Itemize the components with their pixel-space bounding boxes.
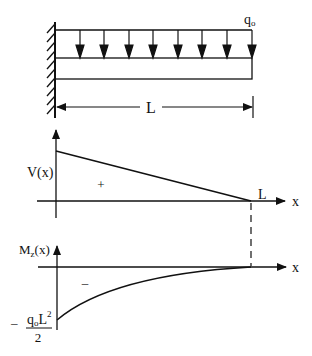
length-label: L [146,99,156,116]
svg-text:2: 2 [35,330,42,345]
shear-axis-label: V(x) [27,165,54,181]
moment-min-label: – qoL2 2 [10,309,52,345]
cantilever-diagram: qo L V(x) + L x Mz(x) – x – qoL2 2 [0,0,312,356]
load-label: qo [244,12,256,28]
fixed-wall-support [47,22,55,118]
shear-end-label: L [258,187,267,202]
shear-sign: + [97,177,104,192]
svg-text:qoL2: qoL2 [27,309,52,328]
length-dimension: L [57,96,253,118]
beam [55,58,252,79]
moment-sign: – [81,275,89,290]
svg-text:–: – [10,315,18,330]
shear-x-label: x [292,194,299,209]
moment-diagram: Mz(x) – x – qoL2 2 [10,242,299,345]
moment-x-label: x [292,260,299,275]
distributed-load: qo [55,12,256,58]
shear-diagram: V(x) + L x [27,130,299,218]
shear-line [56,151,251,201]
moment-axis-label: Mz(x) [19,242,50,259]
